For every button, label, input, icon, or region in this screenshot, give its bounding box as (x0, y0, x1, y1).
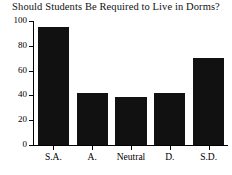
y-axis-tick (29, 95, 34, 96)
y-axis-tick-label: 0 (1, 140, 27, 149)
x-axis-tick (209, 146, 210, 150)
bar (154, 93, 185, 145)
x-axis-tick (92, 146, 93, 150)
y-axis-tick (29, 46, 34, 47)
bar-chart-figure: Should Students Be Required to Live in D… (0, 0, 232, 175)
y-axis-tick (29, 71, 34, 72)
y-axis-tick-label: 60 (1, 66, 27, 75)
chart-title: Should Students Be Required to Live in D… (0, 1, 232, 12)
y-axis-tick-label: 20 (1, 115, 27, 124)
y-axis-tick-label: 80 (1, 41, 27, 50)
x-axis-tick (170, 146, 171, 150)
y-axis-tick (29, 21, 34, 22)
x-axis-tick (131, 146, 132, 150)
bar (38, 27, 69, 145)
y-axis-tick (29, 145, 34, 146)
y-axis-tick-labels: 020406080100 (0, 0, 27, 175)
y-axis-tick (29, 120, 34, 121)
x-axis-tick (53, 146, 54, 150)
bar (115, 97, 146, 145)
y-axis-tick-label: 100 (1, 16, 27, 25)
x-axis-tick-label: S.D. (179, 152, 232, 163)
y-axis-tick-label: 40 (1, 90, 27, 99)
bar (77, 93, 108, 145)
plot-area (34, 21, 228, 145)
bar (193, 58, 224, 145)
